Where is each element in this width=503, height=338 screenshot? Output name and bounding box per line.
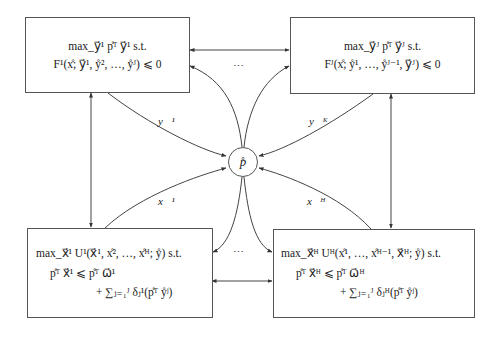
consumerH-budget: p̊ᵀ x⃗ᴴ ⩽ p̊ᵀ ω⃗ᴴ	[296, 266, 364, 281]
bottom-left-consumer-box: max_x⃗¹ U¹(x⃗¹, x̊², …, x̊ᴴ; ẙ) s.t. p̊ᵀ…	[27, 228, 213, 318]
consumer1-budget: p̊ᵀ x⃗¹ ⩽ p̊ᵀ ω⃗¹	[50, 266, 115, 281]
edge-label-xH: x⃗ᴴ	[307, 195, 324, 207]
firm1-constraint: F¹(x̊; y⃗¹, ẙ², …, ẙᴶ) ⩽ 0	[26, 57, 189, 72]
firm1-objective: max_y⃗¹ p̊ᵀ y⃗¹ s.t.	[26, 39, 189, 54]
consumerH-objective: max_x⃗ᴴ Uᴴ(x̊¹, …, x̊ᴴ⁻¹, x⃗ᴴ; ẙ) s.t.	[281, 246, 441, 261]
price-node: p̊	[228, 147, 258, 177]
consumer1-dividends: + ∑ⱼ₌₁ᴶ δⱼ¹(p̊ᵀ ẙʲ)	[96, 285, 172, 300]
firmJ-objective: max_y⃗ᴶ p̊ᵀ y⃗ᴶ s.t.	[291, 39, 474, 54]
edge-label-y1: y⃗¹	[158, 115, 175, 127]
consumer1-objective: max_x⃗¹ U¹(x⃗¹, x̊², …, x̊ᴴ; ẙ) s.t.	[36, 246, 182, 261]
ellipsis-bottom: ⋯	[233, 246, 245, 259]
ellipsis-top: ⋯	[233, 60, 245, 73]
top-left-firm-box: max_y⃗¹ p̊ᵀ y⃗¹ s.t. F¹(x̊; y⃗¹, ẙ², …, …	[25, 17, 190, 93]
bottom-right-consumer-box: max_x⃗ᴴ Uᴴ(x̊¹, …, x̊ᴴ⁻¹, x⃗ᴴ; ẙ) s.t. p…	[273, 229, 475, 318]
edge-label-x1: x⃗¹	[158, 195, 175, 207]
consumerH-dividends: + ∑ⱼ₌₁ᴶ δⱼᴴ(p̊ᵀ ẙʲ)	[340, 285, 418, 300]
firmJ-constraint: Fᴶ(x̊; ẙ¹, …, ẙᴶ⁻¹, y⃗ᴶ) ⩽ 0	[291, 57, 474, 72]
edge-label-yK: y⃗ᴷ	[309, 115, 328, 127]
top-right-firm-box: max_y⃗ᴶ p̊ᵀ y⃗ᴶ s.t. Fᴶ(x̊; ẙ¹, …, ẙᴶ⁻¹,…	[290, 17, 475, 94]
